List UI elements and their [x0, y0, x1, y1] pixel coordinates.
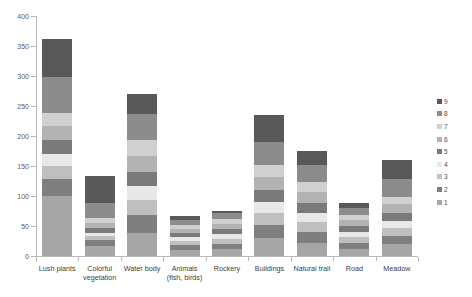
- bar-segment: [42, 140, 72, 154]
- bar-segment: [85, 246, 115, 256]
- bar-segment: [127, 140, 157, 157]
- bar-segment: [85, 176, 115, 203]
- y-axis-tick-label: 300: [1, 73, 29, 80]
- bar-segment: [382, 236, 412, 244]
- bar-segment: [297, 213, 327, 222]
- category-label: Buildings: [248, 264, 290, 273]
- legend-item[interactable]: 3: [437, 171, 472, 184]
- bar-segment: [297, 151, 327, 165]
- bar-segment: [42, 77, 72, 113]
- bar-segment: [212, 249, 242, 256]
- bar-stack: [127, 94, 157, 256]
- bar-segment: [297, 192, 327, 203]
- bar-segment: [254, 213, 284, 225]
- bar-segment: [42, 39, 72, 77]
- y-axis-tick-label: 100: [1, 193, 29, 200]
- legend-label: 7: [444, 123, 448, 130]
- x-axis-tick: [248, 257, 249, 261]
- bar-segment: [339, 208, 369, 215]
- legend-swatch-icon: [437, 187, 442, 192]
- bar-segment: [254, 202, 284, 213]
- bar-segment: [42, 126, 72, 140]
- bar-segment: [42, 113, 72, 126]
- category-label: Water body: [121, 264, 163, 273]
- bar-segment: [127, 114, 157, 139]
- legend-label: 9: [444, 98, 448, 105]
- legend-swatch-icon: [437, 162, 442, 167]
- legend-item[interactable]: 4: [437, 158, 472, 171]
- bar-segment: [297, 243, 327, 256]
- legend-item[interactable]: 1: [437, 196, 472, 209]
- legend-item[interactable]: 5: [437, 145, 472, 158]
- bar-stack: [212, 211, 242, 256]
- legend-label: 4: [444, 161, 448, 168]
- bar-segment: [339, 249, 369, 256]
- legend-item[interactable]: 7: [437, 120, 472, 133]
- legend-label: 1: [444, 199, 448, 206]
- bar-segment: [382, 213, 412, 221]
- legend-item[interactable]: 9: [437, 95, 472, 108]
- bar-segment: [297, 222, 327, 232]
- bar-stack: [85, 176, 115, 256]
- legend-swatch-icon: [437, 137, 442, 142]
- bar-stack: [170, 216, 200, 256]
- x-axis-tick: [376, 257, 377, 261]
- bar-segment: [42, 154, 72, 166]
- legend-item[interactable]: 8: [437, 108, 472, 121]
- bar-segment: [254, 142, 284, 165]
- bar-segment: [42, 196, 72, 256]
- bar-segment: [297, 182, 327, 192]
- bar-segment: [42, 166, 72, 179]
- legend-swatch-icon: [437, 149, 442, 154]
- legend-label: 5: [444, 148, 448, 155]
- legend-item[interactable]: 2: [437, 183, 472, 196]
- category-label: Animals (fish, birds): [163, 264, 205, 282]
- bar-stack: [297, 151, 327, 256]
- y-axis-tick-label: 150: [1, 163, 29, 170]
- x-axis-tick: [121, 257, 122, 261]
- bar-segment: [127, 156, 157, 172]
- bar-segment: [254, 225, 284, 238]
- y-axis-tick-label: 250: [1, 103, 29, 110]
- y-axis-tick-label: 350: [1, 43, 29, 50]
- bar-segment: [254, 177, 284, 190]
- bar-stack: [382, 160, 412, 256]
- bar-segment: [42, 179, 72, 196]
- category-label: Lush plants: [36, 264, 78, 273]
- y-axis-tick-label: 50: [1, 223, 29, 230]
- legend-item[interactable]: 6: [437, 133, 472, 146]
- legend-label: 8: [444, 110, 448, 117]
- bar-segment: [297, 232, 327, 243]
- x-axis-tick: [206, 257, 207, 261]
- category-label: Meadow: [376, 264, 418, 273]
- bar-segment: [127, 215, 157, 233]
- bar-segment: [254, 165, 284, 177]
- x-axis-tick: [291, 257, 292, 261]
- bar-segment: [127, 233, 157, 256]
- legend-label: 2: [444, 186, 448, 193]
- bar-segment: [382, 197, 412, 205]
- plot-area: [36, 16, 418, 256]
- category-label: Road: [333, 264, 375, 273]
- bar-segment: [382, 221, 412, 228]
- bar-segment: [254, 190, 284, 202]
- category-label: Rockery: [206, 264, 248, 273]
- bar-stack: [254, 115, 284, 256]
- bar-segment: [85, 203, 115, 218]
- bar-segment: [297, 203, 327, 213]
- bar-segment: [382, 179, 412, 197]
- legend-label: 6: [444, 136, 448, 143]
- legend-swatch-icon: [437, 99, 442, 104]
- x-axis-tick: [78, 257, 79, 261]
- y-axis-tick-label: 400: [1, 13, 29, 20]
- bar-segment: [382, 160, 412, 179]
- bar-segment: [382, 244, 412, 256]
- x-axis-tick: [163, 257, 164, 261]
- x-axis-tick: [36, 257, 37, 261]
- bar-segment: [170, 250, 200, 256]
- category-label: Colorful vegetation: [78, 264, 120, 282]
- stacked-bar-chart: 050100150200250300350400 Lush plantsColo…: [0, 0, 472, 297]
- bar-stack: [42, 39, 72, 256]
- bar-segment: [127, 94, 157, 114]
- bar-segment: [382, 228, 412, 236]
